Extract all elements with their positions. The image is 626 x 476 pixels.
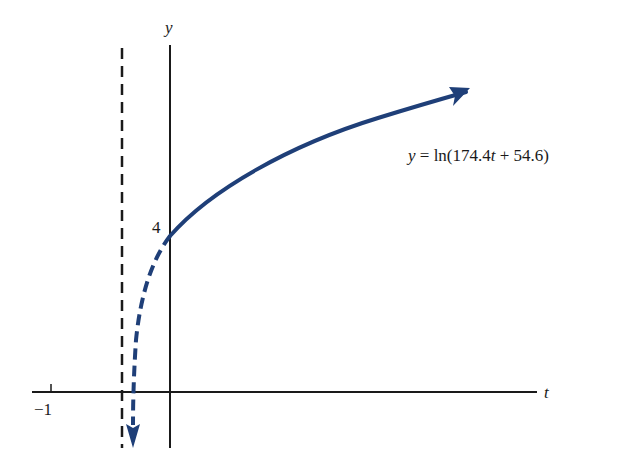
plot-canvas (0, 0, 626, 476)
curve-arrowhead-down (126, 424, 140, 448)
y-axis-label: y (165, 18, 173, 38)
x-tick-label-neg1: −1 (34, 400, 52, 420)
equation-tail: + 54.6) (496, 146, 550, 165)
equation-label: y = ln(174.4t + 54.6) (408, 146, 549, 166)
equation-y: y (408, 146, 416, 165)
equation-body: = ln(174.4 (416, 146, 491, 165)
y-intercept-label: 4 (152, 218, 161, 238)
log-curve-dashed (133, 236, 170, 425)
x-axis-label: t (544, 383, 549, 403)
